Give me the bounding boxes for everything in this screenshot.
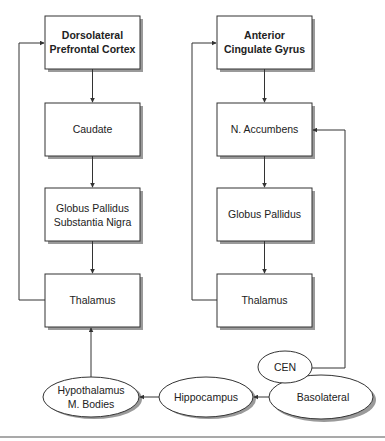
node-label: Hypothalamus — [57, 384, 124, 396]
node-hypothalamus-m-bodies: Hypothalamus M. Bodies — [43, 377, 142, 419]
node-n-accumbens: N. Accumbens — [217, 103, 315, 159]
node-label: Substantia Nigra — [54, 216, 132, 228]
node-thalamus-right: Thalamus — [217, 274, 315, 330]
node-caudate: Caudate — [45, 103, 143, 159]
node-label: Hippocampus — [174, 391, 238, 403]
node-label: Prefrontal Cortex — [50, 43, 136, 55]
node-dlpfc: Dorsolateral Prefrontal Cortex — [45, 16, 143, 72]
node-hippocampus: Hippocampus — [159, 377, 256, 419]
node-label: Dorsolateral — [62, 29, 123, 41]
node-label: N. Accumbens — [231, 123, 299, 135]
edge-cen-n-accumbens — [312, 130, 345, 368]
node-label: Globus Pallidus — [56, 202, 129, 214]
node-label: Caudate — [73, 123, 113, 135]
node-label: Globus Pallidus — [228, 208, 301, 220]
node-label: Thalamus — [241, 294, 287, 306]
node-anterior-cingulate-gyrus: Anterior Cingulate Gyrus — [217, 16, 315, 72]
node-thalamus-left: Thalamus — [45, 274, 143, 330]
node-label: M. Bodies — [68, 398, 115, 410]
node-label: Basolateral — [297, 391, 350, 403]
node-cen: CEN — [258, 351, 312, 383]
node-label: CEN — [274, 361, 296, 373]
node-label: Cingulate Gyrus — [224, 43, 305, 55]
edge-thalamus-acg-feedback — [192, 43, 217, 300]
node-globus-pallidus-right: Globus Pallidus — [217, 188, 315, 244]
node-label: Thalamus — [69, 294, 115, 306]
brain-circuit-diagram: Dorsolateral Prefrontal Cortex Caudate G… — [0, 0, 385, 441]
node-label: Anterior — [244, 29, 285, 41]
edge-thalamus-dlpfc-feedback — [19, 43, 45, 300]
node-globus-pallidus-substantia-nigra: Globus Pallidus Substantia Nigra — [45, 188, 143, 244]
